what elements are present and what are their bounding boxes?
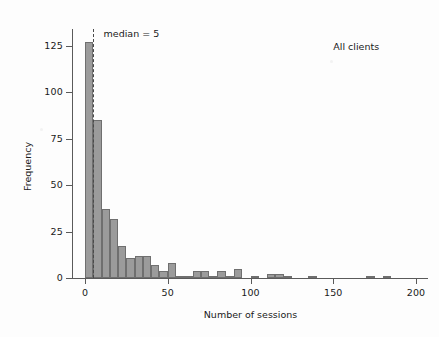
x-tick — [416, 279, 417, 284]
histogram-figure: 0255075100125 050100150200 Frequency Num… — [0, 0, 439, 337]
y-tick — [66, 139, 72, 140]
y-tick — [66, 92, 72, 93]
x-tick — [168, 279, 169, 284]
y-tick — [66, 278, 72, 279]
histogram-bar — [118, 246, 126, 278]
histogram-bar — [85, 42, 93, 278]
x-tick-label: 100 — [241, 287, 260, 298]
x-tick-label: 50 — [162, 287, 175, 298]
histogram-bar — [143, 256, 151, 278]
x-tick — [251, 279, 252, 284]
histogram-bar — [193, 271, 201, 278]
x-tick — [333, 279, 334, 284]
speckle — [40, 128, 43, 131]
y-tick — [66, 185, 72, 186]
histogram-bar — [168, 263, 176, 278]
y-axis-line — [72, 29, 73, 279]
y-tick-label: 50 — [51, 179, 64, 190]
speckle — [330, 60, 333, 63]
y-tick-label: 25 — [51, 226, 64, 237]
median-line — [93, 29, 94, 278]
y-tick-label: 0 — [57, 272, 63, 283]
y-tick-label: 125 — [44, 40, 63, 51]
y-tick-label: 75 — [51, 133, 64, 144]
histogram-bar — [217, 271, 225, 278]
y-tick — [66, 46, 72, 47]
panel-label: All clients — [333, 41, 379, 52]
histogram-bar — [126, 258, 134, 278]
x-tick-label: 200 — [407, 287, 426, 298]
y-tick-label: 100 — [44, 86, 63, 97]
y-axis-label: Frequency — [22, 142, 33, 191]
histogram-bar — [135, 256, 143, 278]
histogram-bar — [234, 269, 242, 278]
speckle — [200, 310, 203, 313]
histogram-bar — [201, 271, 209, 278]
plot-area: 0255075100125 050100150200 Frequency Num… — [0, 0, 439, 337]
x-tick — [85, 279, 86, 284]
histogram-bar — [102, 209, 110, 278]
histogram-bar — [110, 219, 118, 278]
histogram-bar — [151, 265, 159, 278]
x-tick-label: 150 — [324, 287, 343, 298]
histogram-bar — [93, 120, 101, 278]
median-annotation: median = 5 — [104, 28, 160, 39]
histogram-bar — [159, 271, 167, 278]
x-tick-label: 0 — [82, 287, 88, 298]
y-tick — [66, 232, 72, 233]
x-axis-label: Number of sessions — [204, 309, 297, 320]
